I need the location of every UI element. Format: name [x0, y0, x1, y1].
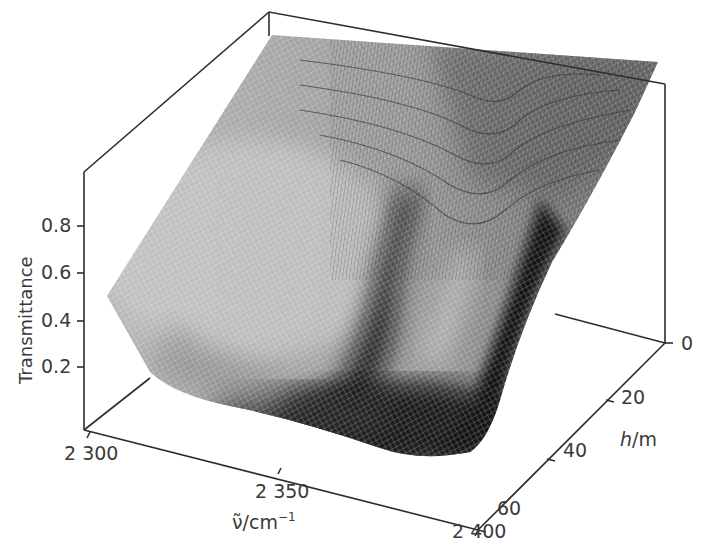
x-tick-2300: 2 300	[64, 444, 118, 463]
surface-plot	[0, 0, 706, 554]
h-tick-60: 60	[497, 499, 521, 518]
transmittance-surface	[80, 20, 680, 480]
x-axis-symbol: ν̃/cm	[232, 511, 278, 533]
h-axis-unit: /m	[632, 428, 657, 450]
z-tick-0.4: 0.4	[41, 311, 71, 330]
h-axis-symbol: h	[620, 428, 632, 450]
h-tick-0: 0	[681, 334, 693, 353]
x-axis-title: ν̃/cm−1	[232, 513, 296, 532]
z-tick-0.6: 0.6	[41, 263, 71, 282]
z-axis-title: Transmittance	[17, 256, 35, 384]
x-tick-2350: 2 350	[255, 482, 309, 501]
h-tick-40: 40	[563, 441, 587, 460]
h-tick-20: 20	[621, 388, 645, 407]
h-axis-title: h/m	[620, 430, 657, 449]
x-axis-exponent: −1	[278, 510, 296, 524]
z-tick-0.2: 0.2	[41, 357, 71, 376]
z-tick-0.8: 0.8	[41, 216, 71, 235]
x-tick-2400: 2 400	[452, 522, 506, 541]
